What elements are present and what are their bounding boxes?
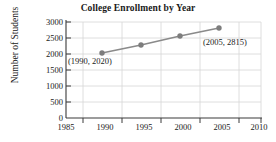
data-point (138, 42, 143, 47)
axis-lines (66, 20, 262, 118)
chart-figure: College Enrollment by Year Number of Stu… (0, 0, 276, 142)
annotation-2005: (2005, 2815) (203, 37, 247, 47)
x-axis-ticks (83, 118, 261, 123)
data-point (177, 33, 182, 38)
data-point (216, 25, 221, 30)
data-point (99, 50, 104, 55)
plot-area (0, 0, 276, 142)
annotation-1990: (1990, 2020) (68, 56, 112, 66)
data-line-enrollment (102, 28, 219, 53)
